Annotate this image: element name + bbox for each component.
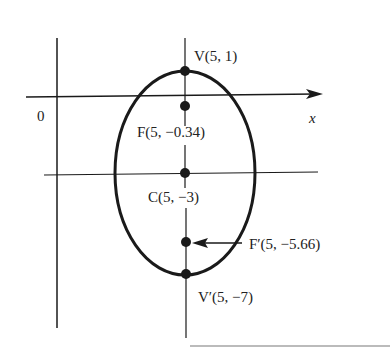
origin-label: 0 xyxy=(37,108,45,124)
point-v-prime xyxy=(181,269,191,279)
point-v xyxy=(180,66,190,76)
x-axis-label: x xyxy=(308,110,316,126)
point-c xyxy=(180,168,190,178)
label-v: V(5, 1) xyxy=(194,48,237,65)
x-axis xyxy=(26,94,316,97)
ellipse-diagram: 0 x V(5, 1) F(5, −0.34) C(5, −3) F′(5, −… xyxy=(0,0,390,348)
label-f-prime: F′(5, −5.66) xyxy=(249,236,320,253)
point-f-prime xyxy=(181,237,191,247)
label-v-prime: V′(5, −7) xyxy=(198,289,253,306)
point-f xyxy=(180,101,190,111)
label-c: C(5, −3) xyxy=(148,189,199,206)
label-f: F(5, −0.34) xyxy=(137,124,205,141)
